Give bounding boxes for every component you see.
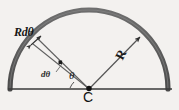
wedge-midpoint-marker	[59, 61, 63, 65]
arc-diagram-figure: Rdθ dθ θ R C	[0, 0, 179, 110]
semicircular-arc	[10, 10, 168, 89]
label-angle-element: dθ	[41, 70, 50, 79]
wedge-ray-lower	[37, 38, 88, 88]
theta-angle-arc	[70, 82, 74, 88]
label-center: C	[83, 90, 93, 104]
label-arc-element: Rdθ	[14, 26, 34, 38]
arc-highlight	[10, 10, 168, 89]
radius-arrow	[90, 37, 140, 88]
label-angle-theta: θ	[69, 70, 74, 81]
